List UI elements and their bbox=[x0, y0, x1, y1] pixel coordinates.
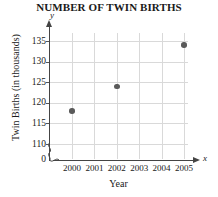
data-point bbox=[69, 108, 75, 114]
gridline-horizontal bbox=[49, 103, 188, 104]
gridline-vertical bbox=[94, 33, 95, 159]
x-axis-tick-label: 2005 bbox=[169, 163, 199, 173]
twin-births-scatter-chart: NUMBER OF TWIN BIRTHS y x 11011512012513… bbox=[0, 0, 218, 197]
y-axis-tick-mark bbox=[46, 123, 49, 124]
gridline-vertical bbox=[184, 33, 185, 159]
y-axis-line bbox=[49, 26, 50, 161]
gridline-horizontal bbox=[49, 41, 188, 42]
data-point bbox=[181, 42, 187, 48]
x-axis-variable-label: x bbox=[203, 153, 207, 163]
data-point bbox=[114, 84, 120, 90]
y-axis-tick-mark bbox=[46, 103, 49, 104]
y-axis-tick-mark bbox=[46, 62, 49, 63]
gridline-vertical bbox=[72, 33, 73, 159]
x-axis-line bbox=[53, 160, 194, 161]
gridline-horizontal bbox=[49, 82, 188, 83]
x-axis-title: Year bbox=[49, 178, 188, 189]
gridline-vertical bbox=[139, 33, 140, 159]
gridline-horizontal bbox=[49, 62, 188, 63]
gridline-horizontal bbox=[49, 144, 188, 145]
y-axis-arrowhead bbox=[46, 20, 52, 27]
plot-area bbox=[49, 33, 188, 159]
gridline-vertical bbox=[117, 33, 118, 159]
y-axis-tick-mark bbox=[46, 41, 49, 42]
y-axis-tick-labels: 1101151201251301350 bbox=[0, 0, 46, 197]
y-axis-title: Twin Births (in thousands) bbox=[10, 18, 21, 158]
gridline-vertical bbox=[162, 33, 163, 159]
gridline-horizontal bbox=[49, 123, 188, 124]
y-axis-variable-label: y bbox=[50, 10, 54, 20]
y-axis-tick-mark bbox=[46, 82, 49, 83]
y-axis-tick-mark bbox=[46, 144, 49, 145]
